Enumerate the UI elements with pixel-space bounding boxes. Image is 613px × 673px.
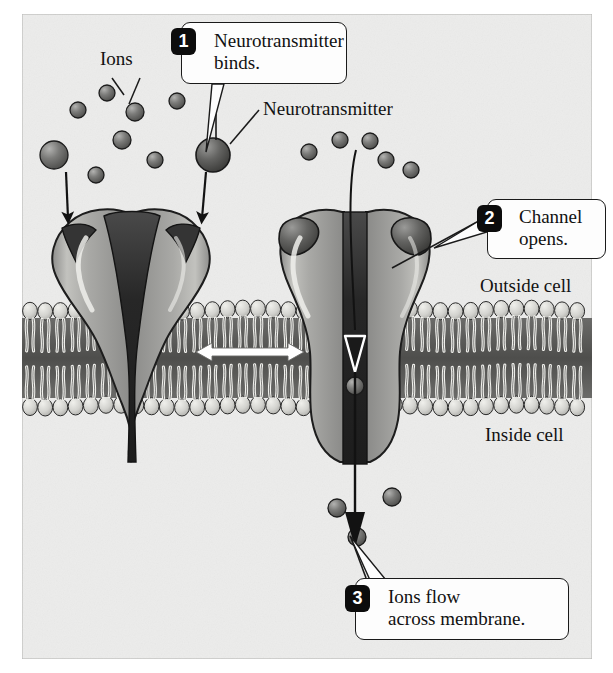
ion [383, 488, 401, 506]
ion [70, 102, 86, 118]
ion [126, 103, 144, 121]
label-inside-cell: Inside cell [485, 424, 564, 445]
ion [147, 152, 163, 168]
label-neurotransmitter: Neurotransmitter [263, 98, 393, 119]
callout-step-2-badge: 2 [477, 205, 502, 232]
figure-container: Ions Neurotransmitter Outside cell Insid… [0, 0, 613, 673]
ion [403, 162, 419, 178]
label-ions: Ions [100, 48, 133, 69]
callout-step-1-badge: 1 [171, 28, 196, 55]
free-neurotransmitter [196, 138, 230, 172]
ion [301, 144, 317, 160]
ion [378, 152, 394, 168]
callout-step-3-badge: 3 [345, 585, 370, 612]
ion [362, 133, 378, 149]
callout-step-1-text: Neurotransmitter binds. [214, 30, 344, 73]
ion [113, 131, 131, 149]
ion [328, 499, 346, 517]
callout-step-1: Neurotransmitter binds. [181, 22, 347, 84]
ion [88, 167, 104, 183]
ion [40, 141, 68, 169]
ion [169, 93, 185, 109]
callout-step-2-text: Channel opens. [519, 206, 582, 249]
ion [99, 85, 115, 101]
callout-step-3: Ions flow across membrane. [355, 578, 569, 640]
callout-step-3-text: Ions flow across membrane. [388, 586, 525, 629]
label-outside-cell: Outside cell [480, 275, 571, 296]
ion [332, 132, 348, 148]
callout-step-2: Channel opens. [487, 199, 606, 259]
